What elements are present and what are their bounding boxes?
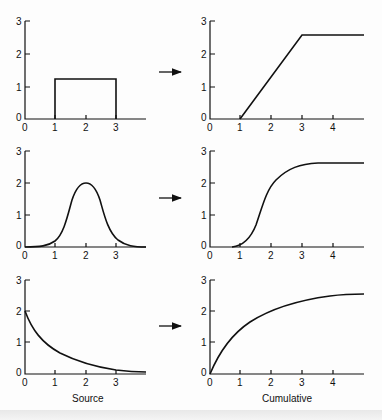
cumulative-caption: Cumulative [262,393,312,404]
y-tick-1: 1 [16,337,22,348]
y-tick-3: 3 [16,275,22,286]
y-tick-1: 1 [201,210,207,221]
y-tick-3: 3 [201,16,207,27]
y-tick-2: 2 [16,306,22,317]
y-tick-2: 2 [201,49,207,60]
row-1-cumulative-chart: 3 2 1 0 0 1 2 3 4 [201,16,364,133]
y-tick-2: 2 [16,49,22,60]
x-tick-1: 1 [237,250,243,261]
y-tick-2: 2 [201,306,207,317]
y-tick-3: 3 [16,146,22,157]
y-tick-3: 3 [16,16,22,27]
x-tick-0: 0 [207,250,213,261]
x-tick-1: 1 [237,122,243,133]
source-cumulative-diagram: 3 2 1 0 0 1 2 3 3 2 1 0 0 1 2 3 4 3 2 1 … [0,0,382,420]
x-tick-2: 2 [83,122,89,133]
x-tick-3: 3 [299,250,305,261]
row-1-source-chart: 3 2 1 0 0 1 2 3 [16,16,146,133]
x-tick-2: 2 [268,122,274,133]
x-tick-3: 3 [113,122,119,133]
x-tick-2: 2 [83,377,89,388]
y-tick-2: 2 [16,178,22,189]
x-tick-0: 0 [207,377,213,388]
saturating-growth-curve [210,294,364,374]
x-tick-2: 2 [268,250,274,261]
x-tick-0: 0 [22,250,28,261]
x-tick-0: 0 [22,122,28,133]
linear-ramp-curve [240,35,364,119]
x-tick-2: 2 [268,377,274,388]
y-tick-1: 1 [16,210,22,221]
exponential-decay-curve [25,311,146,372]
x-tick-4: 4 [330,122,336,133]
source-caption: Source [72,393,104,404]
y-tick-3: 3 [201,146,207,157]
x-tick-1: 1 [237,377,243,388]
page-edge-shadow [0,410,382,420]
y-tick-3: 3 [201,275,207,286]
y-tick-2: 2 [201,178,207,189]
x-tick-4: 4 [330,250,336,261]
rectangle-pulse-curve [55,79,116,119]
x-tick-4: 4 [330,377,336,388]
x-tick-3: 3 [113,377,119,388]
y-tick-1: 1 [16,82,22,93]
row-2-source-chart: 3 2 1 0 0 1 2 3 [16,146,146,261]
x-tick-1: 1 [52,122,58,133]
sigmoid-curve [232,163,364,247]
x-tick-1: 1 [52,250,58,261]
row-3-cumulative-chart: 3 2 1 0 0 1 2 3 4 [201,275,364,388]
row-2-cumulative-chart: 3 2 1 0 0 1 2 3 4 [201,146,364,261]
row-3-source-chart: 3 2 1 0 0 1 2 3 [16,275,146,388]
x-tick-3: 3 [113,250,119,261]
x-tick-0: 0 [207,122,213,133]
x-tick-2: 2 [83,250,89,261]
bell-curve [25,183,146,247]
x-tick-0: 0 [22,377,28,388]
x-tick-3: 3 [299,122,305,133]
y-tick-1: 1 [201,82,207,93]
x-tick-3: 3 [299,377,305,388]
y-tick-1: 1 [201,337,207,348]
x-tick-1: 1 [52,377,58,388]
